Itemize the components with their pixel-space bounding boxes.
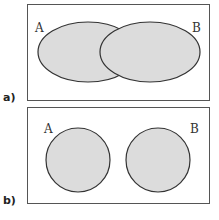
panel-b-label: b): [3, 194, 16, 207]
panel-a-label: a): [3, 91, 15, 104]
set-b-circle: [126, 128, 190, 192]
set-a-label: A: [43, 122, 53, 136]
set-b-ellipse: [100, 22, 200, 82]
set-a-label: A: [34, 21, 44, 35]
set-a-circle: [46, 128, 110, 192]
panel-b-disjoint: A B b): [3, 108, 210, 208]
set-b-label: B: [192, 21, 201, 35]
panel-a-overlapping: A B a): [3, 5, 210, 105]
set-b-label: B: [190, 122, 199, 136]
venn-diagrams: A B a) A B b): [0, 0, 219, 220]
